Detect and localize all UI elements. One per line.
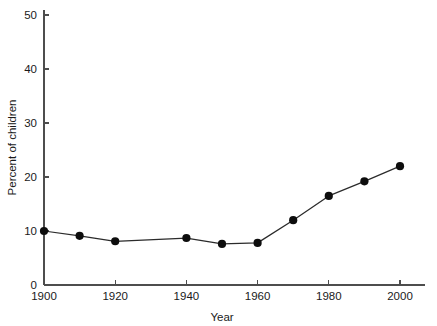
y-axis-tick-marks <box>44 15 49 285</box>
x-tick-label: 1900 <box>31 290 57 302</box>
chart-container: 01020304050 190019201940196019802000 Yea… <box>0 0 437 326</box>
data-point-marker <box>289 216 297 224</box>
data-point-marker <box>76 232 84 240</box>
y-axis-tick-labels: 01020304050 <box>24 9 37 291</box>
data-series-markers <box>40 162 404 248</box>
data-point-marker <box>40 227 48 235</box>
data-point-marker <box>396 162 404 170</box>
y-tick-label: 30 <box>24 117 37 129</box>
data-series-line <box>44 166 400 244</box>
x-tick-label: 2000 <box>387 290 413 302</box>
line-chart: 01020304050 190019201940196019802000 Yea… <box>0 0 437 326</box>
data-point-marker <box>218 240 226 248</box>
x-tick-label: 1980 <box>316 290 342 302</box>
y-tick-label: 40 <box>24 63 37 75</box>
x-tick-label: 1960 <box>245 290 271 302</box>
data-point-marker <box>111 237 119 245</box>
x-tick-label: 1920 <box>102 290 128 302</box>
data-point-marker <box>182 234 190 242</box>
data-point-marker <box>360 177 368 185</box>
x-tick-label: 1940 <box>174 290 200 302</box>
x-axis-tick-marks <box>44 280 400 285</box>
data-point-marker <box>254 239 262 247</box>
x-axis-tick-labels: 190019201940196019802000 <box>31 290 413 302</box>
y-axis-title: Percent of children <box>6 100 18 196</box>
y-tick-label: 20 <box>24 171 37 183</box>
y-tick-label: 50 <box>24 9 37 21</box>
y-tick-label: 10 <box>24 225 37 237</box>
data-point-marker <box>325 192 333 200</box>
x-axis-title: Year <box>210 311 233 323</box>
